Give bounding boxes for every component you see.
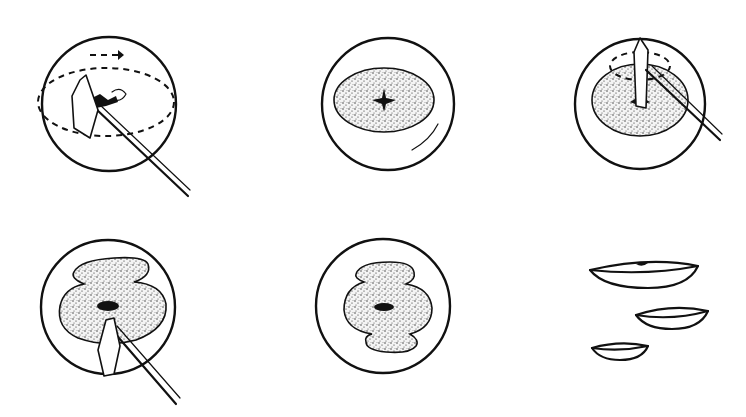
panel-2: [322, 38, 454, 170]
lens-fragment-small: [592, 343, 648, 360]
diagram-canvas: [0, 0, 746, 417]
lens-fragment-large: [590, 262, 698, 288]
panel-4: [41, 240, 180, 404]
lens-fragment-medium: [636, 308, 708, 329]
panel-1: [38, 37, 190, 196]
instrument-tip-icon: [634, 38, 648, 108]
panel-5: [316, 239, 450, 373]
panel-3: [575, 38, 722, 169]
lens-hole: [374, 303, 394, 311]
panel-6: [590, 262, 708, 360]
lens-hole: [97, 301, 119, 311]
